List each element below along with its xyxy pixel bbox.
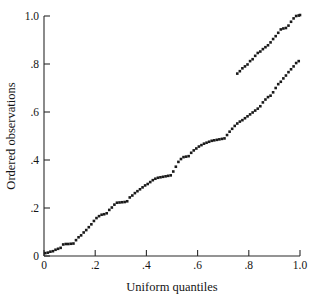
- data-point: [269, 94, 272, 97]
- data-point: [195, 147, 198, 150]
- data-point: [75, 239, 78, 242]
- data-point: [192, 149, 195, 152]
- data-point: [113, 203, 116, 206]
- y-tick-label: 0: [0, 250, 39, 262]
- y-tick-label: .8: [0, 58, 39, 70]
- data-point: [246, 63, 249, 66]
- data-point: [185, 155, 188, 158]
- data-point: [180, 158, 183, 161]
- data-point: [95, 217, 98, 220]
- data-point: [241, 119, 244, 122]
- data-point: [82, 231, 85, 234]
- data-point: [98, 215, 101, 218]
- data-point: [213, 139, 216, 142]
- data-point: [244, 65, 247, 68]
- data-point: [295, 15, 298, 18]
- data-point: [100, 213, 103, 216]
- data-point: [118, 201, 121, 204]
- data-point: [299, 14, 302, 17]
- data-point: [172, 170, 175, 173]
- data-point: [236, 122, 239, 125]
- data-point: [277, 83, 280, 86]
- data-point: [228, 130, 231, 133]
- data-point: [67, 243, 70, 246]
- data-point: [254, 109, 257, 112]
- data-point: [108, 209, 111, 212]
- data-point: [249, 113, 252, 116]
- data-point: [136, 190, 139, 193]
- data-point: [190, 152, 193, 155]
- data-point: [295, 62, 298, 65]
- data-point: [111, 206, 114, 209]
- data-point: [182, 156, 185, 159]
- data-point: [216, 139, 219, 142]
- data-point: [292, 65, 295, 68]
- data-point: [259, 50, 262, 53]
- data-point: [244, 117, 247, 120]
- data-point: [70, 242, 73, 245]
- y-tick-label: 1.0: [0, 10, 39, 22]
- data-point: [162, 176, 165, 179]
- data-point: [241, 67, 244, 70]
- data-point: [231, 128, 234, 131]
- data-point: [262, 101, 265, 104]
- data-point: [146, 183, 149, 186]
- data-point: [205, 141, 208, 144]
- data-point: [290, 20, 293, 23]
- plot-canvas: [0, 0, 314, 301]
- data-point: [210, 140, 213, 143]
- x-tick-label: 1.0: [293, 259, 307, 271]
- data-point: [256, 52, 259, 55]
- data-point: [277, 32, 280, 35]
- data-point: [49, 250, 52, 253]
- data-point-series: [44, 14, 301, 255]
- data-point: [264, 98, 267, 101]
- data-point: [251, 111, 254, 114]
- data-point: [54, 248, 57, 251]
- data-point: [121, 201, 124, 204]
- data-point: [167, 175, 170, 178]
- data-point: [164, 175, 167, 178]
- data-point: [139, 188, 142, 191]
- data-point: [267, 44, 270, 47]
- data-point: [154, 177, 157, 180]
- data-point: [251, 58, 254, 61]
- data-point: [282, 27, 285, 30]
- y-axis-ticks: [44, 16, 50, 256]
- data-point: [262, 48, 265, 51]
- data-point: [236, 72, 239, 75]
- data-point: [226, 134, 229, 137]
- data-point: [144, 184, 147, 187]
- data-point: [177, 161, 180, 164]
- data-point: [203, 142, 206, 145]
- data-point: [218, 138, 221, 141]
- data-point: [233, 125, 236, 128]
- data-point: [272, 91, 275, 94]
- data-point: [59, 247, 62, 250]
- data-point: [280, 80, 283, 83]
- data-point: [249, 60, 252, 63]
- data-point: [134, 192, 137, 195]
- data-point: [169, 174, 172, 177]
- data-point: [223, 137, 226, 140]
- data-point: [264, 46, 267, 49]
- qq-plot-figure: 0.2.4.6.81.0 0.2.4.6.81.0 Uniform quanti…: [0, 0, 314, 301]
- data-point: [259, 105, 262, 108]
- x-tick-label: .2: [91, 259, 100, 271]
- x-tick-label: 0: [41, 259, 47, 271]
- data-point: [175, 165, 178, 168]
- data-point: [128, 196, 131, 199]
- data-point: [290, 68, 293, 71]
- data-point: [274, 87, 277, 90]
- data-point: [52, 250, 55, 253]
- data-point: [85, 229, 88, 232]
- data-point: [62, 243, 65, 246]
- data-point: [285, 74, 288, 77]
- data-point: [239, 120, 242, 123]
- y-tick-label: .2: [0, 202, 39, 214]
- data-point: [47, 251, 50, 254]
- data-point: [44, 252, 47, 255]
- data-point: [292, 17, 295, 20]
- data-point: [152, 179, 155, 182]
- data-point: [282, 77, 285, 80]
